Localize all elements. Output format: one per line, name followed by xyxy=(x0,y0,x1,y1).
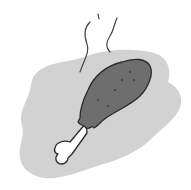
drumstick-illustration xyxy=(0,0,191,190)
steam-line-right xyxy=(107,18,117,52)
drumstick-svg xyxy=(0,0,191,190)
steam-line-tiny xyxy=(98,14,99,19)
